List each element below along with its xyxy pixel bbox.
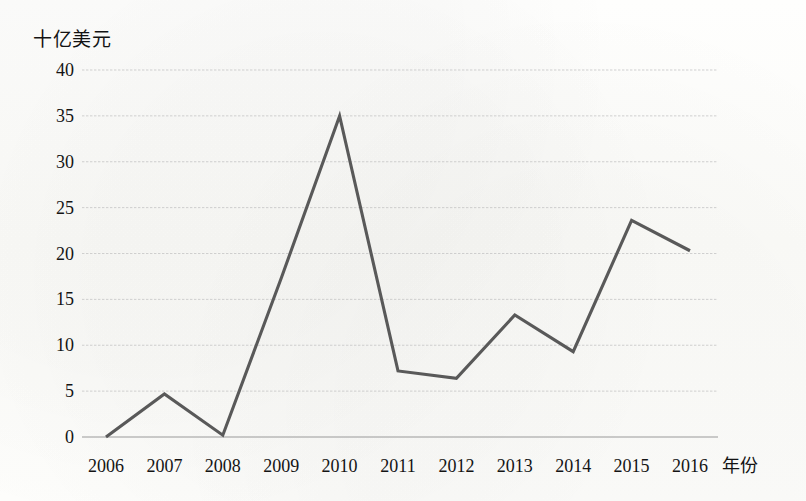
x-tick-label: 2011 <box>380 457 415 475</box>
x-tick-label: 2009 <box>263 457 299 475</box>
y-tick-label: 40 <box>30 61 74 79</box>
y-tick-label: 0 <box>30 428 74 446</box>
line-chart-figure: 十亿美元 4035302520151050 200620072008200920… <box>0 0 806 501</box>
x-axis-title: 年份 <box>722 457 758 475</box>
gridlines <box>82 70 718 437</box>
y-tick-label: 5 <box>30 382 74 400</box>
y-tick-label: 20 <box>30 245 74 263</box>
x-tick-label: 2010 <box>322 457 358 475</box>
x-tick-label: 2008 <box>205 457 241 475</box>
y-tick-label: 10 <box>30 336 74 354</box>
x-tick-label: 2016 <box>672 457 708 475</box>
plot-area <box>0 0 806 501</box>
y-tick-label: 15 <box>30 290 74 308</box>
data-line-series-1 <box>106 116 690 437</box>
x-tick-label: 2014 <box>555 457 591 475</box>
x-tick-label: 2013 <box>497 457 533 475</box>
x-tick-label: 2006 <box>88 457 124 475</box>
x-tick-label: 2012 <box>438 457 474 475</box>
x-tick-label: 2015 <box>614 457 650 475</box>
y-tick-label: 25 <box>30 199 74 217</box>
x-tick-label: 2007 <box>146 457 182 475</box>
y-tick-label: 35 <box>30 107 74 125</box>
y-tick-label: 30 <box>30 153 74 171</box>
